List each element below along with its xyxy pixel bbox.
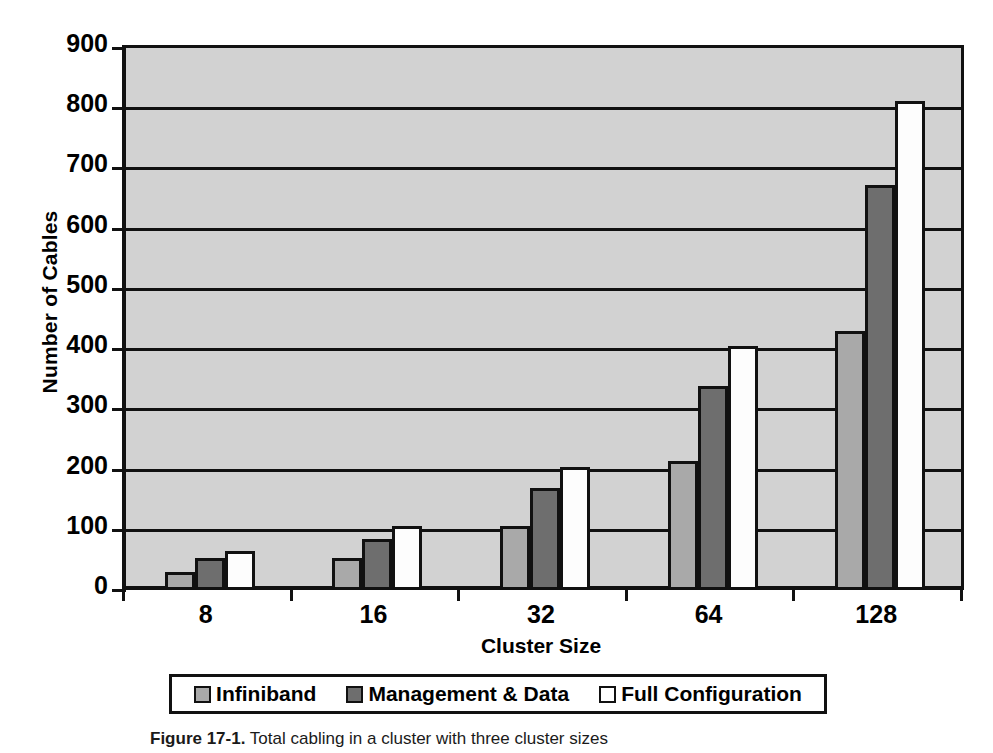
legend-item-management-data[interactable]: Management & Data	[346, 682, 569, 706]
chart-legend: InfinibandManagement & DataFull Configur…	[169, 674, 827, 714]
caption-text: Total cabling in a cluster with three cl…	[250, 729, 608, 748]
y-axis-tick	[112, 408, 126, 411]
bar-infiniband-128[interactable]	[835, 331, 865, 590]
x-axis-tick-label: 16	[359, 600, 387, 629]
y-axis-tick-label: 400	[0, 330, 108, 359]
legend-label: Management & Data	[368, 682, 569, 706]
legend-item-full-configuration[interactable]: Full Configuration	[599, 682, 802, 706]
y-axis-tick-label: 600	[0, 210, 108, 239]
y-axis-tick	[112, 228, 126, 231]
x-axis-title: Cluster Size	[122, 634, 960, 658]
x-axis-tick	[122, 587, 125, 601]
x-axis-tick-label: 64	[695, 600, 723, 629]
bar-full-configuration-16[interactable]	[392, 526, 422, 590]
y-axis-tick	[112, 167, 126, 170]
legend-item-infiniband[interactable]: Infiniband	[194, 682, 316, 706]
y-axis-tick-label: 300	[0, 390, 108, 419]
bar-full-configuration-128[interactable]	[895, 101, 925, 590]
y-axis-tick	[112, 288, 126, 291]
bar-full-configuration-32[interactable]	[560, 467, 590, 590]
figure-caption: Figure 17-1. Total cabling in a cluster …	[150, 729, 970, 749]
x-axis-tick-label: 128	[855, 600, 897, 629]
bar-management-data-64[interactable]	[698, 386, 728, 590]
x-axis-tick-labels: 8163264128	[122, 600, 960, 634]
bar-infiniband-32[interactable]	[500, 526, 530, 590]
y-axis-tick-label: 100	[0, 511, 108, 540]
gridline	[126, 288, 964, 291]
x-axis-tick	[290, 587, 293, 601]
y-axis-tick	[112, 107, 126, 110]
y-axis-tick-labels: 0100200300400500600700800900	[0, 45, 108, 587]
legend-label: Full Configuration	[621, 682, 802, 706]
gridline	[126, 107, 964, 110]
y-axis-tick-label: 500	[0, 270, 108, 299]
y-axis-tick-label: 700	[0, 149, 108, 178]
y-axis-tick-label: 0	[0, 571, 108, 600]
x-axis-tick-label: 32	[527, 600, 555, 629]
y-axis-tick-label: 200	[0, 451, 108, 480]
x-axis-tick	[457, 587, 460, 601]
y-axis-tick-label: 900	[0, 29, 108, 58]
bar-infiniband-64[interactable]	[668, 461, 698, 590]
caption-figure-number: Figure 17-1.	[150, 729, 245, 748]
white-swatch-icon	[599, 686, 616, 703]
bar-management-data-16[interactable]	[362, 539, 392, 590]
light-gray-swatch-icon	[194, 686, 211, 703]
y-axis-tick	[112, 529, 126, 532]
y-axis-tick	[112, 348, 126, 351]
plot-inner	[126, 48, 964, 590]
dark-gray-swatch-icon	[346, 686, 363, 703]
plot-area	[122, 45, 964, 590]
plot-right-border	[961, 48, 964, 590]
y-axis-tick	[112, 469, 126, 472]
x-axis-tick	[792, 587, 795, 601]
bar-management-data-128[interactable]	[865, 185, 895, 590]
bar-infiniband-16[interactable]	[332, 558, 362, 590]
figure-container: Number of Cables 01002003004005006007008…	[0, 0, 993, 753]
gridline	[126, 167, 964, 170]
x-axis-tick	[625, 587, 628, 601]
x-axis-tick	[960, 587, 963, 601]
bar-full-configuration-8[interactable]	[225, 551, 255, 590]
y-axis-tick	[112, 47, 126, 50]
gridline	[126, 228, 964, 231]
bar-management-data-8[interactable]	[195, 558, 225, 590]
x-axis-tick-label: 8	[199, 600, 213, 629]
bar-management-data-32[interactable]	[530, 488, 560, 590]
legend-label: Infiniband	[216, 682, 316, 706]
y-axis-tick-label: 800	[0, 89, 108, 118]
bar-full-configuration-64[interactable]	[728, 346, 758, 591]
